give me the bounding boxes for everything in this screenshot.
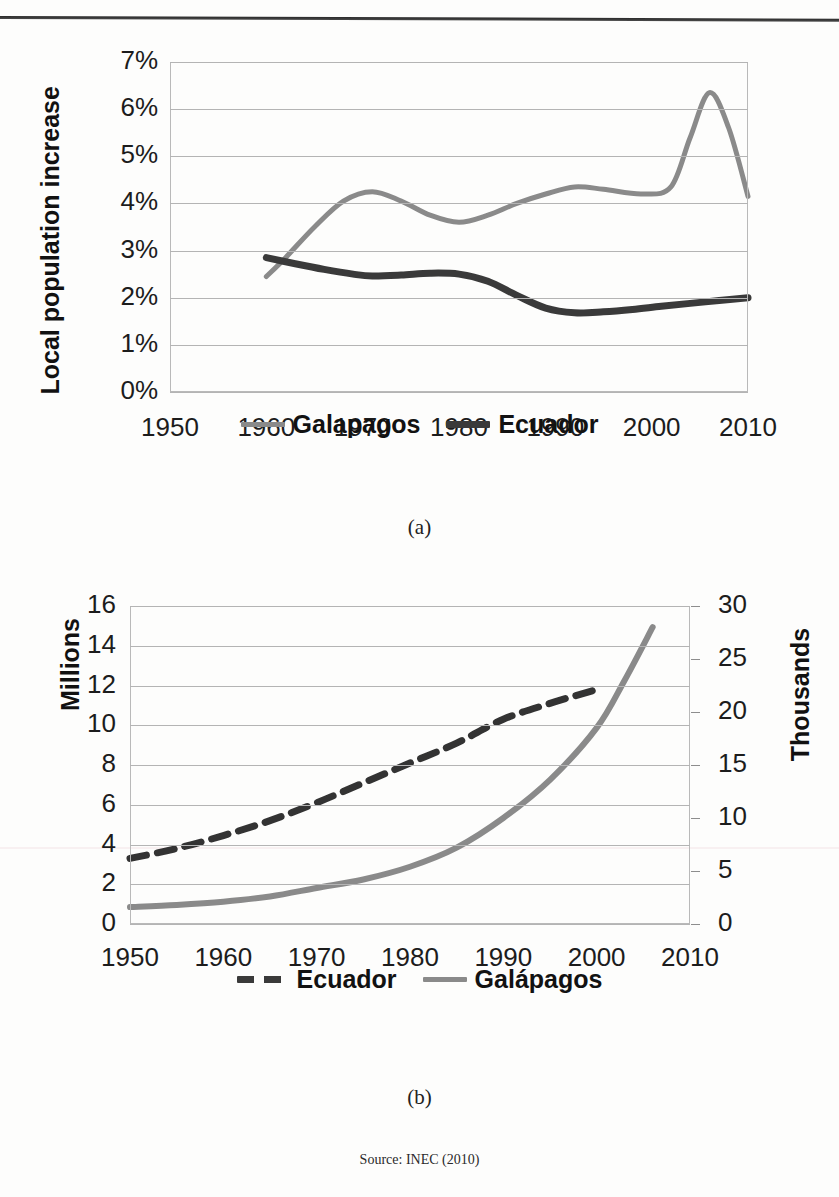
axis-tickmark [691,765,700,766]
gridline [170,251,748,252]
gridline [170,345,748,346]
y-axis-tick-label: 12 [46,671,116,697]
gridline [170,156,748,157]
chart-b-plot-area [130,606,690,924]
chart-a-legend: GalapagosEcuador [0,410,839,439]
figure-page: Local population increase 0%1%2%3%4%5%6%… [0,0,839,1197]
caption-a: (a) [0,515,839,540]
y-axis-tick-label: 6% [88,94,158,120]
gridline [130,765,690,766]
y-axis-tick-label: 5% [88,141,158,167]
legend-label: Ecuador [498,410,598,439]
gridline [130,924,690,925]
source-note: Source: INEC (2010) [0,1152,839,1168]
legend-line-swatch-icon [423,977,467,982]
legend-line-swatch-icon [237,976,289,983]
axis-tickmark [691,659,700,660]
chart-b-ylabel-right: Thousands [786,595,815,795]
gridline [170,392,748,393]
y-axis-tick-label: 1% [88,330,158,356]
legend-label: Galapagos [293,410,421,439]
gridline [170,298,748,299]
y-axis-tick-label: 4% [88,188,158,214]
y-axis-tick-label: 8 [46,750,116,776]
chart-b-legend: EcuadorGalápagos [0,965,839,994]
legend-line-swatch-icon [241,422,285,427]
y-axis-tick-label: 15 [718,750,788,776]
y-axis-tick-label: 6 [46,790,116,816]
y-axis-tick-label: 5 [718,856,788,882]
axis-tickmark [691,871,700,872]
gridline [170,203,748,204]
legend-item-galápagos[interactable]: Galápagos [423,965,603,994]
y-axis-tick-label: 2 [46,869,116,895]
y-axis-tick-label: 16 [46,591,116,617]
y-axis-tick-label: 2% [88,283,158,309]
legend-label: Galápagos [475,965,603,994]
axis-tickmark [691,924,700,925]
chart-panel-b: Millions Thousands 0246810121416 0510152… [0,580,839,1010]
gridline [130,884,690,885]
y-axis-tick-label: 25 [718,644,788,670]
y-axis-tick-label: 10 [46,710,116,736]
y-axis-tick-label: 7% [88,47,158,73]
y-axis-tick-label: 20 [718,697,788,723]
y-axis-tick-label: 10 [718,803,788,829]
gridline [130,805,690,806]
gridline [130,606,690,607]
page-top-rule [0,16,839,22]
axis-tickmark [691,818,700,819]
y-axis-tick-label: 4 [46,830,116,856]
legend-item-ecuador[interactable]: Ecuador [446,410,598,439]
chart-a-frame [170,62,748,392]
chart-a-ylabel: Local population increase [36,145,65,395]
legend-item-ecuador[interactable]: Ecuador [237,965,397,994]
axis-tickmark [691,606,700,607]
chart-panel-a: Local population increase 0%1%2%3%4%5%6%… [0,40,839,440]
legend-item-galapagos[interactable]: Galapagos [241,410,421,439]
gridline [170,62,748,63]
y-axis-tick-label: 14 [46,631,116,657]
caption-b: (b) [0,1085,839,1110]
chart-a-plot-area [170,62,748,392]
gridline [130,646,690,647]
y-axis-tick-label: 0 [46,909,116,935]
legend-line-swatch-icon [446,421,490,428]
gridline [130,725,690,726]
y-axis-tick-label: 0% [88,377,158,403]
y-axis-tick-label: 3% [88,236,158,262]
gridline [130,845,690,846]
legend-label: Ecuador [297,965,397,994]
gridline [170,109,748,110]
axis-tickmark [691,712,700,713]
y-axis-tick-label: 30 [718,591,788,617]
y-axis-tick-label: 0 [718,909,788,935]
gridline [130,686,690,687]
